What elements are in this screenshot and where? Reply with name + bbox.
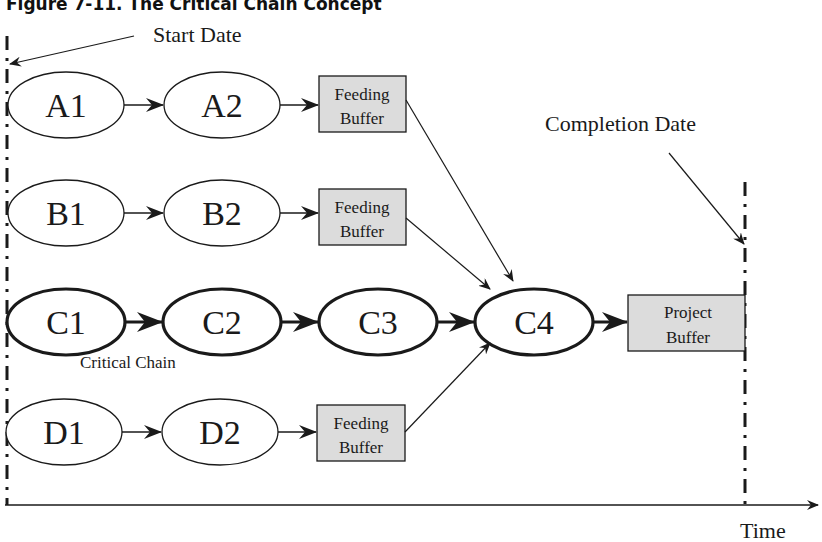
row-d: D1 D2 Feeding Buffer: [6, 399, 405, 465]
feeding-buffer-b-label-line2: Buffer: [340, 222, 384, 241]
arrow-buffer-a-to-c4: [406, 100, 513, 281]
task-label-c3: C3: [358, 304, 398, 341]
task-label-c1: C1: [46, 304, 86, 341]
feeding-buffer-a-label-line2: Buffer: [340, 109, 384, 128]
row-c-critical-chain: C1 C2 C3 C4 Project Buffer Critical Chai…: [7, 289, 745, 372]
task-label-b1: B1: [46, 195, 86, 232]
project-buffer-label-line1: Project: [664, 303, 712, 322]
row-b: B1 B2 Feeding Buffer: [8, 180, 406, 246]
feeding-buffer-b-label-line1: Feeding: [335, 198, 390, 217]
completion-date-pointer-arrow: [669, 153, 744, 244]
project-buffer-label-line2: Buffer: [666, 328, 710, 347]
figure-title: Figure 7-11. The Critical Chain Concept: [6, 0, 382, 14]
start-date-label: Start Date: [153, 22, 242, 47]
task-label-d2: D2: [199, 414, 241, 451]
time-axis-label: Time: [740, 518, 786, 542]
task-label-c2: C2: [202, 304, 242, 341]
feeding-buffer-d-label-line2: Buffer: [339, 438, 383, 457]
critical-chain-diagram: Figure 7-11. The Critical Chain Concept …: [0, 0, 822, 542]
arrow-buffer-b-to-c4: [406, 218, 490, 289]
task-label-c4: C4: [514, 304, 554, 341]
task-label-a2: A2: [201, 87, 243, 124]
critical-chain-label: Critical Chain: [80, 353, 176, 372]
feeding-buffer-d-label-line1: Feeding: [334, 414, 389, 433]
start-date-pointer-arrow: [10, 36, 134, 64]
completion-date-label: Completion Date: [545, 111, 696, 136]
arrow-buffer-d-to-c4: [405, 343, 490, 432]
row-a: A1 A2 Feeding Buffer: [8, 72, 406, 138]
task-label-a1: A1: [45, 87, 87, 124]
feeding-buffer-a-label-line1: Feeding: [335, 85, 390, 104]
task-label-d1: D1: [43, 414, 85, 451]
task-label-b2: B2: [202, 195, 242, 232]
